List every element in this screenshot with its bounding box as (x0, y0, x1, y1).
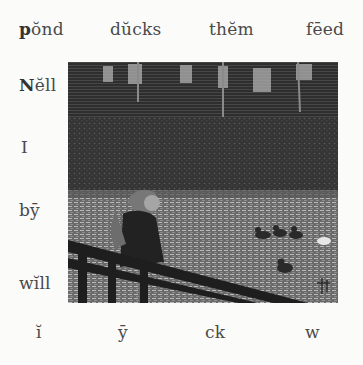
top-word-ducks: dŭcks (110, 19, 161, 39)
bold-letter: p (19, 19, 31, 39)
top-word-them: thĕm (209, 19, 254, 39)
duck-white (317, 237, 331, 245)
far-bank-bushes (68, 117, 338, 192)
duck (289, 231, 303, 239)
left-word-by: bȳ (19, 200, 40, 220)
sound-w: w (305, 322, 320, 342)
bold-letter: N (19, 75, 35, 95)
left-word-i: I (21, 137, 28, 157)
top-word-feed: fēed (306, 19, 344, 39)
pond-illustration (68, 62, 338, 303)
engraving-svg (68, 62, 338, 303)
sound-y: ȳ (118, 322, 128, 342)
left-word-nell: Nĕll (19, 75, 56, 95)
sound-ck: ck (205, 322, 225, 342)
sound-i: ĭ (36, 322, 42, 342)
top-word-pond: pŏnd (19, 19, 64, 39)
left-word-will: wĭll (19, 273, 51, 293)
